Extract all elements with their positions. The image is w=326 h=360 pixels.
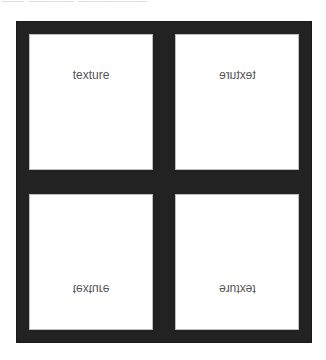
- texture-label-mirrored: texture: [219, 68, 256, 82]
- texture-panel-bottom-right: texture: [176, 195, 298, 329]
- texture-label-normal: texture: [73, 68, 110, 82]
- texture-label-rotated-180: texture: [219, 282, 256, 296]
- texture-panel-top-right: texture: [176, 35, 298, 169]
- texture-panel-top-left: texture: [30, 35, 152, 169]
- texture-label-flipped-vertical: texture: [73, 282, 110, 296]
- cropped-caption-text: —— ———— ——————: [2, 0, 147, 6]
- texture-panel-bottom-left: texture: [30, 195, 152, 329]
- texture-grid-frame: texture texture texture texture: [16, 21, 312, 343]
